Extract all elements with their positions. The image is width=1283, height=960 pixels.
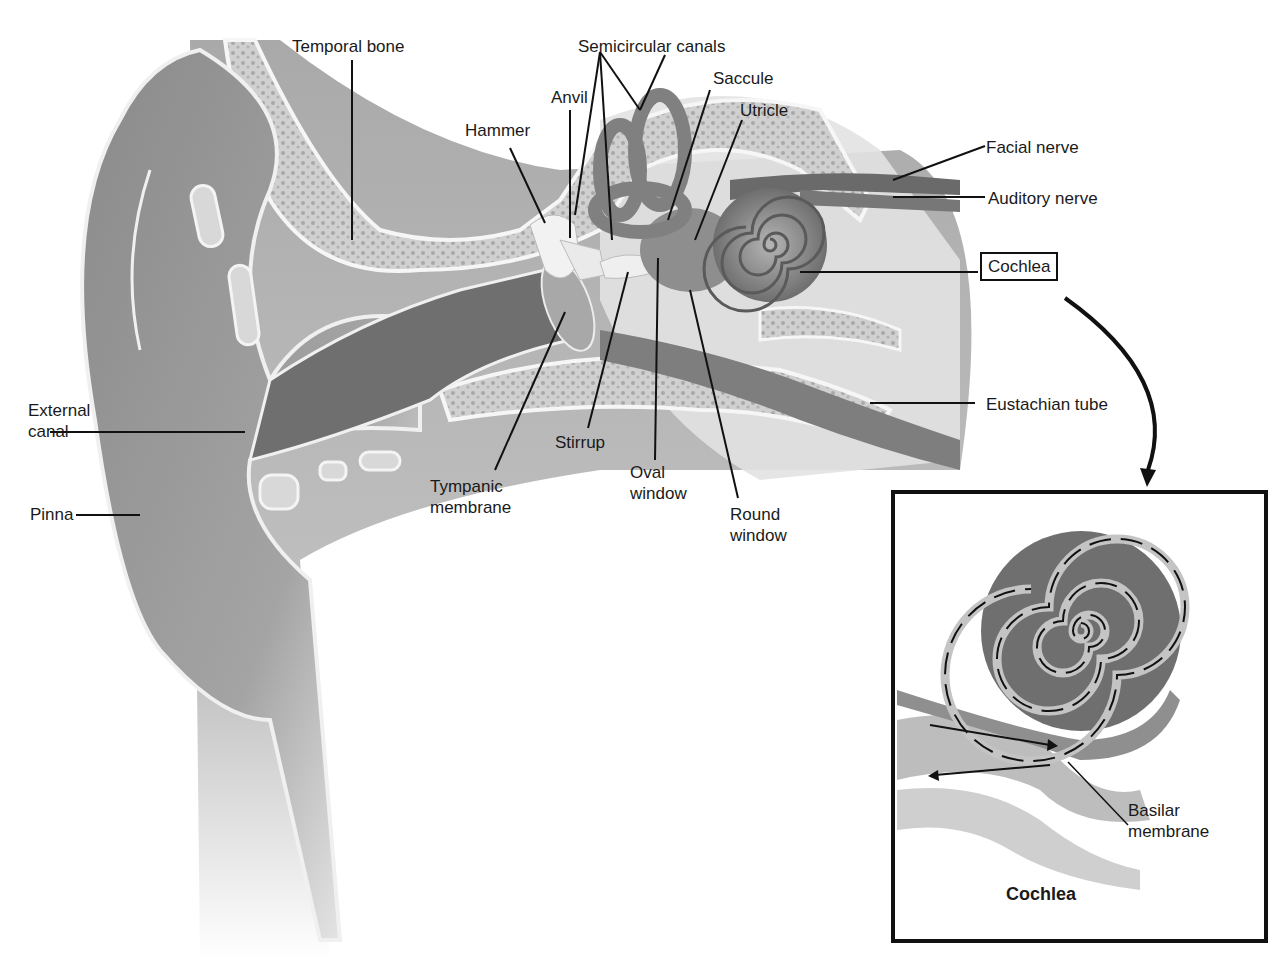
label-basilar-membrane: Basilar membrane: [1128, 800, 1209, 842]
label-eustachian-tube: Eustachian tube: [986, 394, 1108, 415]
arrowhead-icon: [1140, 468, 1156, 487]
cochlea-inset: [893, 492, 1266, 941]
label-utricle: Utricle: [740, 100, 788, 121]
label-stirrup: Stirrup: [555, 432, 605, 453]
label-semicircular-canals: Semicircular canals: [578, 36, 725, 57]
inset-title: Cochlea: [1006, 884, 1076, 905]
label-facial-nerve: Facial nerve: [986, 137, 1079, 158]
label-anvil: Anvil: [551, 87, 588, 108]
label-oval-window: Oval window: [630, 462, 687, 504]
label-hammer: Hammer: [465, 120, 530, 141]
label-cochlea-box: Cochlea: [980, 252, 1058, 281]
label-external-canal: External canal: [28, 400, 90, 442]
cochlea-callout-arrow: [1065, 298, 1155, 470]
label-saccule: Saccule: [713, 68, 773, 89]
label-pinna: Pinna: [30, 504, 73, 525]
label-temporal-bone: Temporal bone: [292, 36, 404, 57]
label-auditory-nerve: Auditory nerve: [988, 188, 1098, 209]
label-tympanic-membrane: Tympanic membrane: [430, 476, 511, 518]
label-round-window: Round window: [730, 504, 787, 546]
